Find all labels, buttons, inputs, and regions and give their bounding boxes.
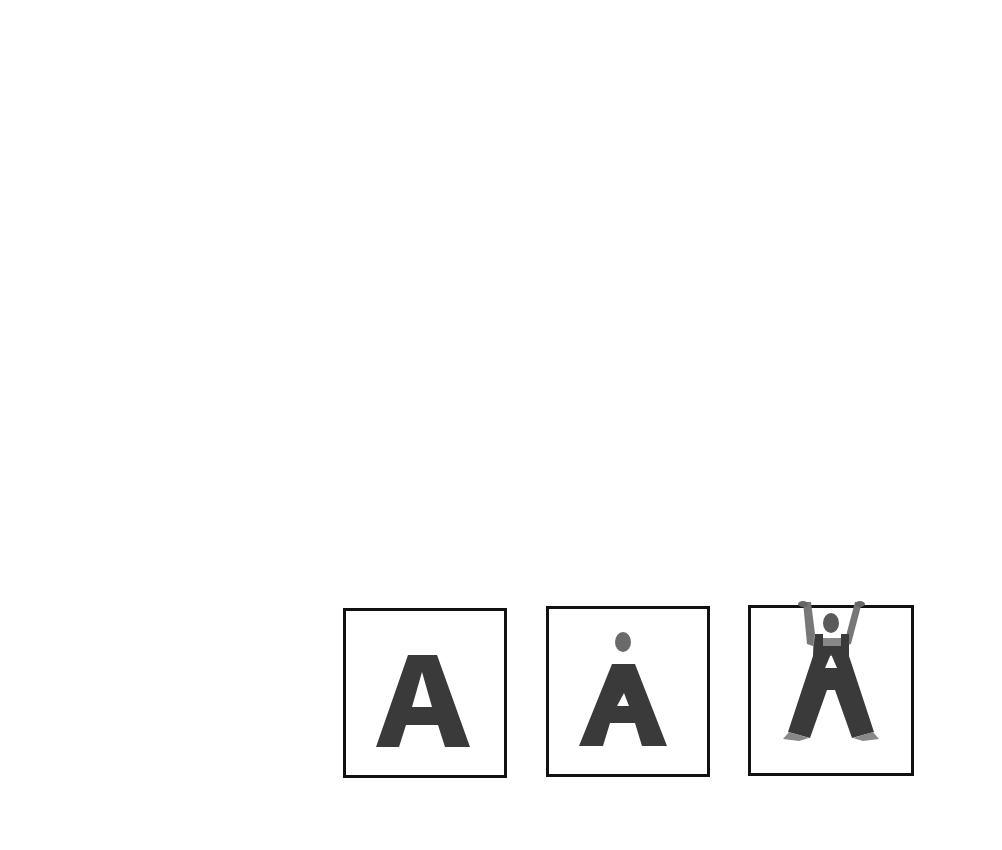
panel-letter-a-person: Letter A as person in overalls [748, 605, 914, 776]
head-icon [615, 632, 631, 652]
panel-letter-a-with-head: Letter A with head [546, 606, 710, 777]
head-icon [823, 613, 839, 633]
panel-letter-a: Letter A [343, 608, 507, 778]
letter-a-icon [346, 611, 504, 775]
letter-a-head-icon [549, 609, 707, 774]
person-overalls-icon [751, 608, 911, 773]
